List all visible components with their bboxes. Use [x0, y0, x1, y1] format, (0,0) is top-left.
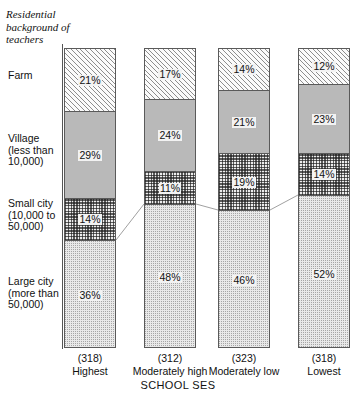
category-label-small-city: Small city (10,000 to 50,000)	[8, 198, 64, 233]
segment-value-label: 21%	[78, 75, 101, 86]
segment-value-label: 29%	[78, 150, 101, 161]
segment-village-col2[interactable]: 24%	[145, 100, 195, 172]
category-label-village-line3: 10,000)	[8, 156, 64, 168]
segment-value-label: 48%	[158, 272, 181, 283]
segment-value-label: 17%	[158, 69, 181, 80]
segment-value-label: 46%	[232, 275, 255, 286]
segment-large-city-col1[interactable]: 36%	[65, 241, 115, 348]
segment-large-city-col2[interactable]: 48%	[145, 205, 195, 348]
bar-column-4[interactable]: 12%23%14%52%	[298, 48, 350, 348]
segment-large-city-col3[interactable]: 46%	[219, 211, 269, 348]
category-label-village-line1: Village	[8, 133, 64, 145]
x-label-count: (318)	[45, 352, 135, 365]
category-label-large-city-line3: 50,000)	[8, 299, 64, 311]
x-label-count: (323)	[199, 352, 289, 365]
x-axis-title: SCHOOL SES	[0, 379, 356, 391]
segment-small-city-col3[interactable]: 19%	[219, 154, 269, 211]
x-label-group-3: (323)Moderately low	[199, 352, 289, 377]
segment-small-city-col2[interactable]: 11%	[145, 172, 195, 205]
segment-value-label: 21%	[232, 117, 255, 128]
category-label-large-city-line1: Large city	[8, 276, 64, 288]
segment-farm-col4[interactable]: 12%	[299, 49, 349, 85]
segment-farm-col3[interactable]: 14%	[219, 49, 269, 91]
x-label-name: Lowest	[279, 365, 356, 378]
segment-village-col1[interactable]: 29%	[65, 112, 115, 199]
chart-title: Residential background of teachers	[6, 8, 84, 46]
category-label-small-city-line3: 50,000)	[8, 221, 64, 233]
segment-small-city-col1[interactable]: 14%	[65, 199, 115, 241]
x-label-name: Highest	[45, 365, 135, 378]
segment-value-label: 14%	[78, 214, 101, 225]
category-label-small-city-line1: Small city	[8, 198, 64, 210]
segment-village-col3[interactable]: 21%	[219, 91, 269, 154]
stacked-bar-chart: Residential background of teachers Farm …	[0, 0, 356, 402]
segment-value-label: 14%	[312, 169, 335, 180]
segment-value-label: 52%	[312, 269, 335, 280]
x-label-group-4: (318)Lowest	[279, 352, 356, 377]
segment-farm-col1[interactable]: 21%	[65, 49, 115, 112]
bar-column-2[interactable]: 17%24%11%48%	[144, 48, 196, 348]
category-label-farm-text: Farm	[8, 69, 33, 81]
bar-column-1[interactable]: 21%29%14%36%	[64, 48, 116, 348]
category-label-farm: Farm	[8, 70, 64, 82]
bar-column-3[interactable]: 14%21%19%46%	[218, 48, 270, 348]
x-label-group-1: (318)Highest	[45, 352, 135, 377]
segment-village-col4[interactable]: 23%	[299, 85, 349, 154]
x-label-count: (318)	[279, 352, 356, 365]
segment-small-city-col4[interactable]: 14%	[299, 154, 349, 196]
segment-value-label: 23%	[312, 114, 335, 125]
x-label-name: Moderately low	[199, 365, 289, 378]
segment-value-label: 12%	[312, 61, 335, 72]
segment-value-label: 24%	[158, 130, 181, 141]
segment-farm-col2[interactable]: 17%	[145, 49, 195, 100]
category-label-village: Village (less than 10,000)	[8, 133, 64, 168]
segment-value-label: 36%	[78, 290, 101, 301]
segment-value-label: 14%	[232, 64, 255, 75]
segment-value-label: 19%	[232, 177, 255, 188]
category-label-large-city: Large city (more than 50,000)	[8, 276, 64, 311]
segment-large-city-col4[interactable]: 52%	[299, 196, 349, 348]
segment-value-label: 11%	[159, 183, 181, 194]
